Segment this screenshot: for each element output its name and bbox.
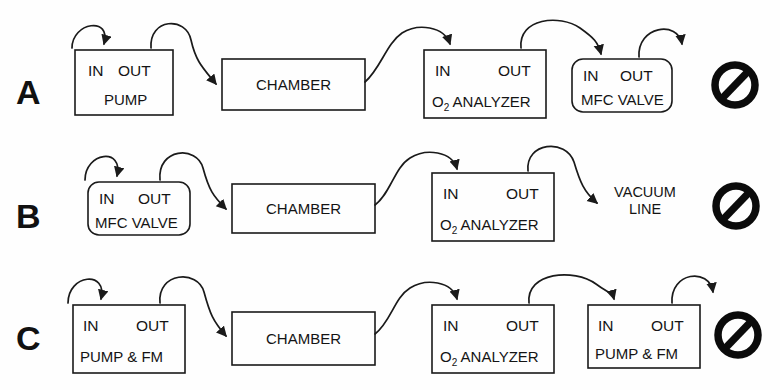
inlet-arrow-a	[72, 26, 105, 48]
mfc-out-label-b: OUT	[138, 190, 171, 207]
outlet-arrow-a	[639, 29, 682, 57]
node-vacuum-line-b: VACUUM LINE	[614, 184, 676, 217]
o2-in-label-b: IN	[443, 185, 459, 202]
pump-in-label-a: IN	[88, 62, 104, 79]
pumpfm-in-label-c: IN	[83, 317, 99, 334]
pumpfm-out-label-c: OUT	[136, 317, 169, 334]
o2-out-label-a: OUT	[498, 62, 531, 79]
mfc-in-label-a: IN	[583, 67, 599, 84]
o2-in-label-a: IN	[435, 62, 451, 79]
prohibition-icon-b	[716, 186, 756, 226]
row-a: A IN OUT PUMP CHAMBER IN OUT O2 ANALYZER…	[16, 20, 755, 118]
flow-diagram: A IN OUT PUMP CHAMBER IN OUT O2 ANALYZER…	[0, 0, 780, 390]
pumpfm2-in-label-c: IN	[598, 317, 614, 334]
prohibition-icon-a	[715, 65, 755, 105]
o2-out-label-c: OUT	[506, 317, 539, 334]
mfc-out-label-a: OUT	[620, 67, 653, 84]
chamber-label-a: CHAMBER	[256, 76, 331, 93]
row-label-a: A	[16, 73, 41, 111]
chamber-label-b: CHAMBER	[266, 200, 341, 217]
link-o2-mfc-a	[521, 20, 601, 54]
inlet-arrow-b	[85, 156, 118, 180]
pump-out-label-a: OUT	[118, 62, 151, 79]
prohibition-icon-c	[718, 315, 758, 355]
row-c: C IN OUT PUMP & FM CHAMBER IN OUT O2 ANA…	[16, 275, 758, 373]
row-label-b: B	[16, 197, 41, 235]
mfc-name-a: MFC VALVE	[581, 91, 664, 108]
link-o2-pumpfm2-c	[529, 275, 614, 303]
row-b: B IN OUT MFC VALVE CHAMBER IN OUT O2 ANA…	[16, 146, 756, 241]
chamber-label-c: CHAMBER	[266, 330, 341, 347]
inlet-arrow-c	[68, 279, 102, 303]
vacuum-line-text-2: LINE	[629, 201, 662, 217]
pumpfm2-name-c: PUMP & FM	[595, 345, 678, 362]
vacuum-line-text-1: VACUUM	[614, 184, 676, 200]
mfc-in-label-b: IN	[99, 190, 115, 207]
pump-name-a: PUMP	[104, 91, 147, 108]
pumpfm2-out-label-c: OUT	[651, 317, 684, 334]
outlet-arrow-c	[672, 276, 713, 303]
mfc-name-b: MFC VALVE	[95, 214, 178, 231]
figure-canvas: A IN OUT PUMP CHAMBER IN OUT O2 ANALYZER…	[0, 0, 780, 390]
o2-in-label-c: IN	[443, 317, 459, 334]
row-label-c: C	[16, 319, 41, 357]
pumpfm-name-c: PUMP & FM	[80, 348, 163, 365]
o2-out-label-b: OUT	[506, 185, 539, 202]
